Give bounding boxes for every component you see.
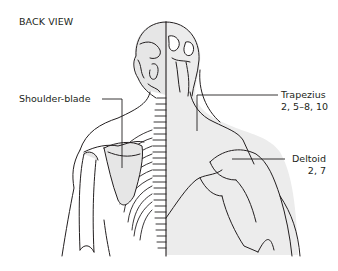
shoulder-blade-label: Shoulder-blade <box>19 93 91 105</box>
shoulder-blade <box>104 142 143 205</box>
humerus <box>79 154 96 252</box>
left-arm-outline <box>62 150 80 256</box>
trapezius-name: Trapezius <box>281 89 328 101</box>
deltoid-refs: 2, 7 <box>288 165 326 177</box>
back-view-figure <box>0 0 338 271</box>
deltoid-label: Deltoid 2, 7 <box>288 153 326 176</box>
spine <box>153 98 166 248</box>
trapezius-label: Trapezius 2, 5–8, 10 <box>281 89 328 112</box>
muscle-side-shading <box>166 22 298 255</box>
trapezius-refs: 2, 5–8, 10 <box>281 101 328 113</box>
deltoid-name: Deltoid <box>288 153 326 165</box>
